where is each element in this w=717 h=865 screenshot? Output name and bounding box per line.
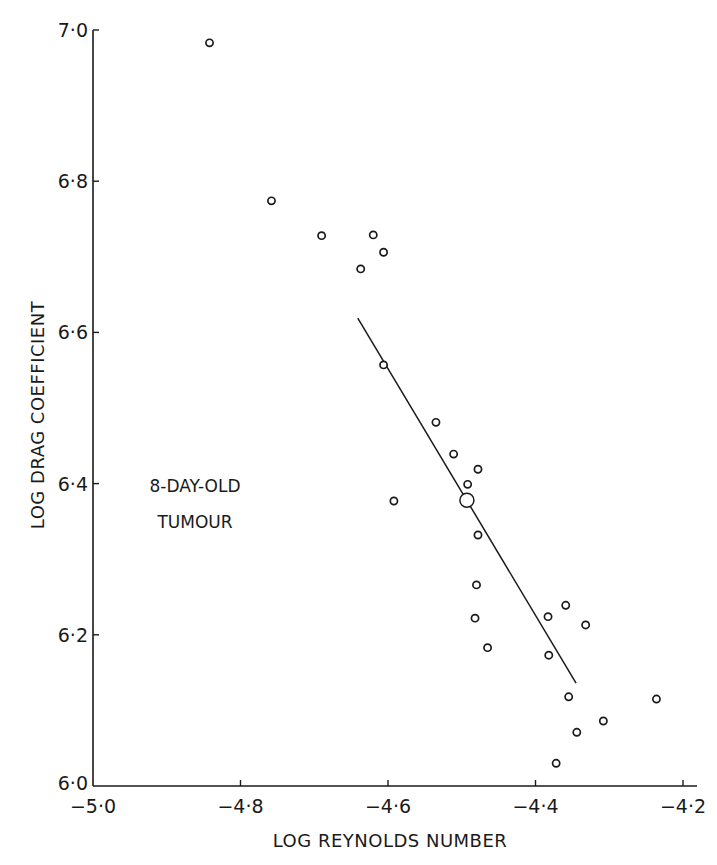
y-tick-label: 7·0 (58, 19, 88, 41)
data-point (545, 652, 552, 659)
y-tick-label: 6·4 (58, 473, 88, 495)
mean-point (460, 493, 474, 507)
data-point (473, 581, 480, 588)
mean-marker (460, 493, 474, 507)
y-tick-label: 6·0 (58, 772, 88, 794)
data-point (380, 361, 387, 368)
data-point (318, 232, 325, 239)
data-point (653, 695, 660, 702)
x-tick-label: −4·6 (365, 795, 411, 817)
data-point (474, 531, 481, 538)
data-point (573, 729, 580, 736)
x-tick-label: −4·8 (217, 795, 263, 817)
data-point (565, 693, 572, 700)
data-point (484, 644, 491, 651)
data-points (206, 39, 660, 767)
data-point (390, 497, 397, 504)
data-point (357, 265, 364, 272)
data-point (600, 717, 607, 724)
data-point (380, 249, 387, 256)
x-tick-label: −4·4 (512, 795, 558, 817)
x-tick-label: −4·2 (660, 795, 706, 817)
x-tick-label: −5·0 (70, 795, 116, 817)
annotation-line-1: 8-DAY-OLD (150, 476, 241, 496)
data-point (562, 602, 569, 609)
data-point (450, 451, 457, 458)
data-point (464, 481, 471, 488)
data-point (471, 615, 478, 622)
data-point (268, 197, 275, 204)
data-point (553, 760, 560, 767)
data-point (474, 466, 481, 473)
data-point (370, 231, 377, 238)
y-axis-title: LOG DRAG COEFFICIENT (27, 300, 48, 529)
y-tick-label: 6·2 (58, 624, 88, 646)
data-point (206, 39, 213, 46)
x-axis-title: LOG REYNOLDS NUMBER (273, 830, 508, 851)
y-tick-label: 6·6 (58, 321, 88, 343)
data-point (582, 621, 589, 628)
annotation-line-2: TUMOUR (156, 512, 232, 532)
y-tick-label: 6·8 (58, 170, 88, 192)
data-point (544, 613, 551, 620)
data-point (432, 419, 439, 426)
axes (93, 30, 697, 786)
scatter-chart: −5·0−4·8−4·6−4·4−4·2 6·06·26·46·66·87·0 … (0, 0, 717, 865)
